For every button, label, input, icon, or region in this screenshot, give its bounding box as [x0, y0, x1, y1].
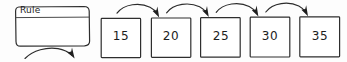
connector-arrow-3-curve [216, 4, 256, 13]
connector-arrow-2 [167, 4, 209, 17]
diagram-canvas: Rule 15 20 25 30 35 [0, 0, 347, 62]
rule-output-arrow [25, 48, 75, 59]
connector-arrow-1-head [153, 6, 160, 17]
connector-arrow-4-curve [266, 3, 306, 12]
connector-arrow-3-head [252, 6, 259, 17]
connector-arrow-4 [266, 3, 308, 16]
number-box-3-value: 25 [201, 29, 241, 43]
number-box-4-value: 30 [250, 29, 290, 43]
connector-arrow-1-curve [117, 4, 157, 13]
rule-box-divider [16, 17, 89, 18]
connector-arrow-2-head [202, 6, 209, 17]
sequence-connectors [117, 3, 308, 17]
number-box-1-value: 15 [101, 29, 141, 43]
connector-arrow-2-curve [167, 4, 207, 13]
connector-arrow-4-head [301, 5, 308, 16]
connector-arrow-3 [216, 4, 258, 17]
rule-output-arrowhead [67, 48, 74, 59]
rule-box-label: Rule [20, 5, 40, 15]
number-box-5-value: 35 [300, 29, 340, 43]
rule-output-arrow-curve [25, 48, 72, 58]
connector-arrow-1 [117, 4, 159, 17]
number-box-2-value: 20 [151, 29, 191, 43]
